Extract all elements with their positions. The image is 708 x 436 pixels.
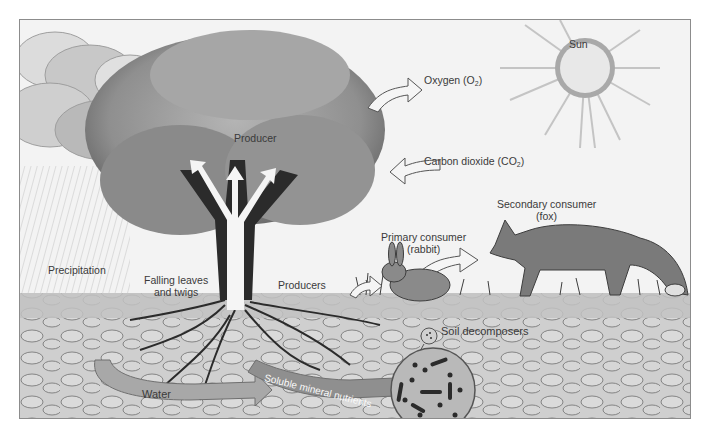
producers-label: Producers xyxy=(278,279,326,291)
soil-decomposers-label: Soil decomposers xyxy=(441,325,528,337)
secondary-consumer-label: Secondary consumer (fox) xyxy=(497,198,596,222)
precipitation-label: Precipitation xyxy=(48,264,106,276)
falling-leaves-label: Falling leaves and twigs xyxy=(144,274,208,298)
producer-label: Producer xyxy=(234,132,277,144)
ecosystem-diagram: Sun Oxygen (O2) Carbon dioxide (CO2) Pro… xyxy=(19,19,691,419)
sun-label: Sun xyxy=(569,38,588,50)
carbon-dioxide-label: Carbon dioxide (CO2) xyxy=(424,155,524,171)
primary-consumer-label: Primary consumer (rabbit) xyxy=(381,231,466,255)
oxygen-label: Oxygen (O2) xyxy=(424,74,482,90)
water-label: Water xyxy=(142,388,171,400)
